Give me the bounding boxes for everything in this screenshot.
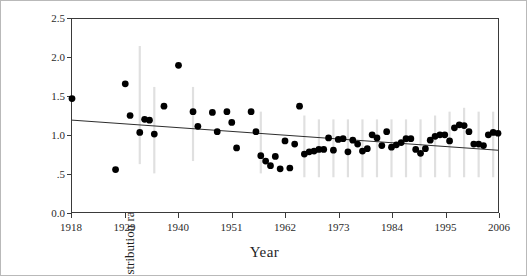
y-tick-label: 1.0 — [39, 130, 65, 141]
data-point — [422, 145, 429, 152]
data-point — [466, 128, 473, 135]
data-point — [286, 165, 293, 172]
data-point — [378, 142, 385, 149]
y-tick-label: 2.5 — [39, 13, 65, 24]
data-point — [224, 108, 231, 115]
y-tick-label: 0.0 — [39, 208, 65, 219]
x-tick-mark — [285, 213, 286, 218]
data-point — [354, 141, 361, 148]
data-point — [127, 112, 134, 119]
data-point — [267, 162, 274, 169]
data-point — [320, 146, 327, 153]
plot-area — [72, 19, 498, 212]
data-point — [441, 131, 448, 138]
data-point — [190, 108, 197, 115]
x-tick-mark — [125, 213, 126, 218]
x-tick-label: 1951 — [208, 220, 256, 234]
x-tick-label: 1962 — [261, 220, 309, 234]
x-axis-title: Year — [1, 244, 527, 261]
plot-frame — [71, 18, 499, 213]
data-point — [69, 95, 76, 102]
data-point — [296, 103, 303, 110]
data-point — [175, 62, 182, 69]
data-point — [407, 135, 414, 142]
x-axis-ticks — [71, 213, 499, 219]
x-tick-label: 2006 — [475, 220, 523, 234]
data-point — [161, 103, 168, 110]
data-point — [122, 80, 129, 87]
x-tick-label: 1995 — [422, 220, 470, 234]
data-point — [325, 135, 332, 142]
data-point — [291, 141, 298, 148]
data-point — [277, 165, 284, 172]
x-tick-mark — [499, 213, 500, 218]
data-point — [194, 123, 201, 130]
data-point — [136, 129, 143, 136]
data-point — [461, 122, 468, 129]
scatter-plot-canvas — [72, 19, 498, 212]
x-tick-mark — [178, 213, 179, 218]
data-point — [495, 130, 502, 137]
data-point — [480, 142, 487, 149]
data-point — [272, 153, 279, 160]
data-point — [233, 145, 240, 152]
x-tick-label: 1929 — [101, 220, 149, 234]
x-tick-mark — [71, 213, 72, 218]
data-point — [364, 145, 371, 152]
x-tick-label: 1940 — [154, 220, 202, 234]
x-tick-mark — [392, 213, 393, 218]
data-point — [228, 119, 235, 126]
data-point — [374, 135, 381, 142]
x-tick-mark — [446, 213, 447, 218]
data-point — [330, 147, 337, 154]
data-point — [383, 128, 390, 135]
x-tick-mark — [339, 213, 340, 218]
data-point — [112, 166, 119, 173]
x-axis-tick-labels: 191819291940195119621973198419952006 — [71, 220, 499, 236]
x-tick-label: 1984 — [368, 220, 416, 234]
data-point — [282, 138, 289, 145]
y-tick-label: 2.0 — [39, 52, 65, 63]
data-point — [446, 138, 453, 145]
y-tick-label: .5 — [39, 169, 65, 180]
data-point — [248, 108, 255, 115]
data-point — [257, 152, 264, 159]
x-tick-label: 1918 — [47, 220, 95, 234]
data-point — [151, 131, 158, 138]
y-axis-tick-labels: 0.0.51.01.52.02.5 — [37, 18, 65, 213]
data-point — [209, 109, 216, 116]
x-tick-mark — [232, 213, 233, 218]
x-tick-label: 1973 — [315, 220, 363, 234]
data-point — [345, 148, 352, 155]
chart-figure: 0.0.51.01.52.02.5 Distribution rank/amin… — [0, 0, 527, 276]
data-point — [253, 128, 260, 135]
data-point — [214, 128, 221, 135]
data-point — [146, 117, 153, 124]
data-point — [340, 135, 347, 142]
y-tick-label: 1.5 — [39, 91, 65, 102]
